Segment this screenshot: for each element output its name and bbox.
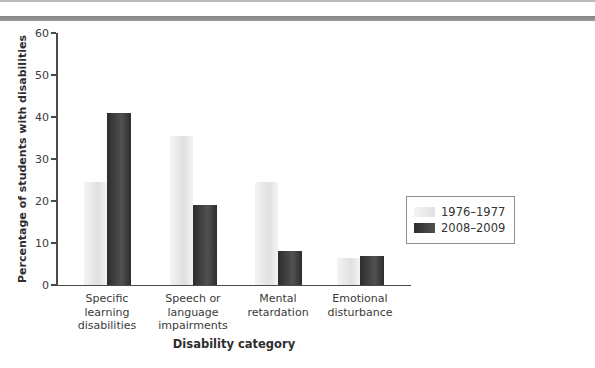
y-tick-mark	[51, 200, 56, 202]
x-category-label: Emotional disturbance	[308, 292, 412, 319]
legend-swatch-icon	[414, 207, 435, 217]
y-tick-label: 60	[19, 27, 49, 40]
y-tick-label: 10	[19, 237, 49, 250]
y-tick-label: 50	[19, 69, 49, 82]
legend-items: 1976–19772008–2009	[414, 205, 505, 235]
bar-series2-cat2	[193, 205, 217, 285]
y-axis-line	[56, 33, 58, 286]
bar-series1-cat4	[337, 258, 361, 285]
bar-series2-cat1	[107, 113, 131, 285]
y-tick-label: 30	[19, 153, 49, 166]
legend-row: 2008–2009	[414, 221, 505, 235]
y-tick-mark	[51, 74, 56, 76]
bar-series2-cat4	[360, 256, 384, 285]
x-axis-title: Disability category	[132, 337, 336, 351]
y-tick-label: 0	[19, 279, 49, 292]
legend-label: 2008–2009	[441, 221, 505, 235]
y-tick-mark	[51, 32, 56, 34]
y-tick-mark	[51, 242, 56, 244]
bar-series1-cat3	[255, 182, 279, 285]
y-tick-mark	[51, 116, 56, 118]
legend-row: 1976–1977	[414, 205, 505, 219]
grouped-bar-chart: Percentage of students with disabilities…	[0, 0, 595, 368]
bar-series1-cat2	[170, 136, 194, 285]
legend: 1976–19772008–2009	[406, 196, 515, 244]
y-tick-mark	[51, 158, 56, 160]
y-tick-mark	[51, 284, 56, 286]
legend-swatch-icon	[414, 223, 435, 233]
bar-series2-cat3	[278, 251, 302, 285]
legend-label: 1976–1977	[441, 205, 505, 219]
y-tick-label: 20	[19, 195, 49, 208]
y-tick-label: 40	[19, 111, 49, 124]
figure-page: Percentage of students with disabilities…	[0, 0, 595, 368]
bar-series1-cat1	[84, 182, 108, 285]
